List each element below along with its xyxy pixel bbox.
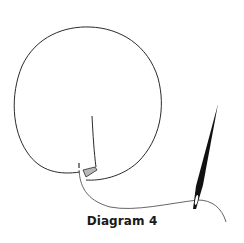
needle-shaft: [193, 104, 218, 209]
diagram-caption: Diagram 4: [0, 214, 244, 228]
needle: [193, 104, 218, 209]
thread-loop: [14, 27, 161, 180]
knot-wrap: [83, 167, 97, 177]
diagram-canvas: [0, 0, 244, 243]
thread-tail: [92, 116, 96, 167]
working-thread: [79, 170, 198, 208]
